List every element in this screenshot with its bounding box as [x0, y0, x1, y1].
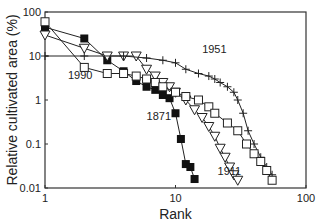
x-axis-label: Rank	[159, 206, 193, 222]
x-tick-label: 100	[297, 192, 315, 204]
rank-area-chart: 0.010.1110100110100 RankRelative cultiva…	[0, 0, 326, 223]
y-tick-label: 0.1	[26, 138, 41, 150]
y-axis-label: Relative cultivated area (%)	[4, 14, 20, 185]
annotation-1990: 1990	[68, 69, 92, 81]
y-tick-label: 10	[29, 50, 41, 62]
x-tick-label: 1	[42, 192, 48, 204]
series-1990	[41, 18, 276, 184]
annotation-1951: 1951	[202, 43, 226, 55]
annotation-1911: 1911	[218, 165, 242, 177]
y-tick-label: 100	[23, 6, 41, 18]
y-tick-label: 1	[35, 94, 41, 106]
y-tick-label: 0.01	[20, 182, 41, 194]
x-tick-label: 10	[169, 192, 181, 204]
series-1871	[41, 23, 199, 183]
annotation-1871: 1871	[147, 110, 171, 122]
